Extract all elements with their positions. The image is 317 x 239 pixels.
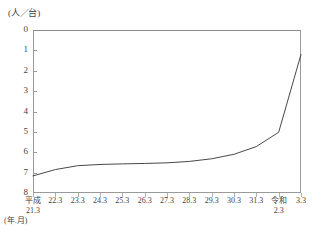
data-series-line — [33, 54, 301, 175]
series-layer — [0, 0, 317, 239]
chart-container: (人／台) 012345678 平成22.323.324.325.326.327… — [0, 0, 317, 239]
